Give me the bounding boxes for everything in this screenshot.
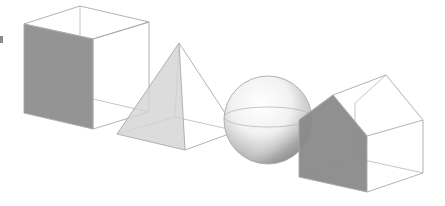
house-shape <box>299 75 423 192</box>
cube-shape <box>24 6 149 129</box>
cube-front-face <box>24 24 93 129</box>
solids-diagram <box>0 0 445 206</box>
pyramid-front-face <box>117 43 185 150</box>
pyramid-shape <box>117 43 237 150</box>
